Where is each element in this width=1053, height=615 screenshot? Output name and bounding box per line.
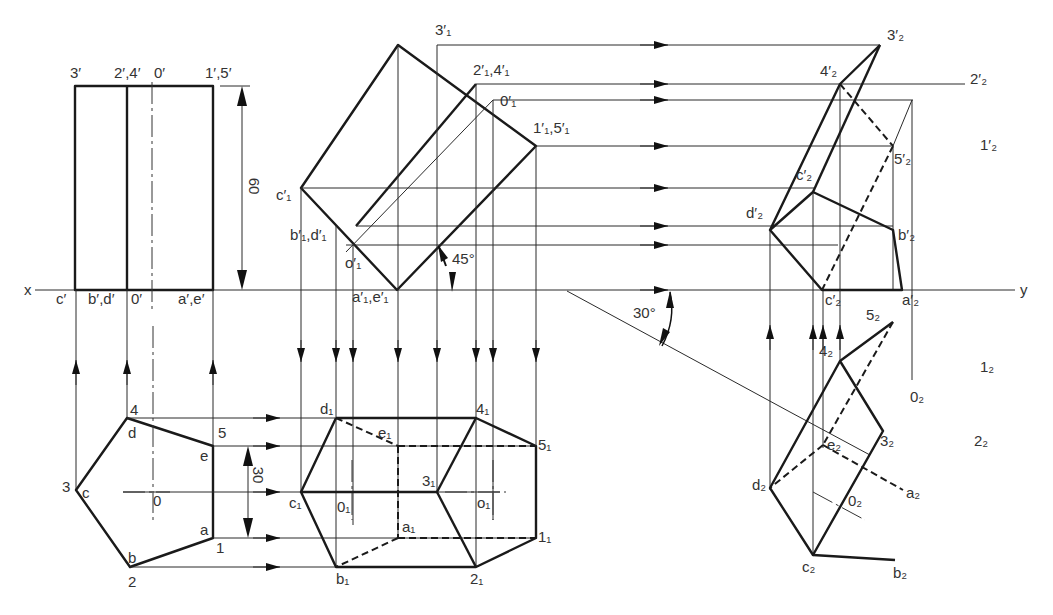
label: 0₂	[848, 492, 862, 509]
label: 1	[216, 539, 224, 556]
label: 3₂	[880, 432, 894, 449]
label: d	[128, 424, 136, 441]
label: b₂	[893, 564, 907, 581]
label: b′₂	[898, 226, 915, 243]
label: 2′,4′	[114, 64, 141, 81]
label: 2′₁,4′₁	[473, 61, 510, 78]
dim-half-width: 30	[250, 467, 267, 484]
label: c′	[56, 290, 67, 307]
label: 1′₂	[980, 136, 997, 153]
label: a′₂	[902, 291, 919, 308]
label: 1′₁,5′₁	[533, 119, 570, 136]
label: 4₁	[476, 400, 489, 417]
label: c′₁	[276, 186, 291, 203]
front-view: 60 3′ 2′,4′ 0′ 1′,5′ c′ b′,d′ 0′ a′,e′	[56, 64, 263, 312]
label: e	[200, 447, 208, 464]
top-view: 30 4 d 5 e 3 c 0 a 1 b 2	[62, 326, 267, 590]
angle-45: 45°	[452, 250, 475, 267]
tilted-front-view: 45° 3′₁ 2′₁,4′₁ 0′₁ 1′₁,5′₁ c′₁ b′₁,d′₁ …	[276, 21, 570, 305]
label: a′,e′	[178, 290, 205, 307]
projection-lines-vertical-mid	[301, 45, 536, 567]
dim-height: 60	[246, 178, 263, 195]
label: c₂	[802, 558, 816, 575]
label: 0₂	[910, 388, 924, 405]
angle-30: 30°	[633, 304, 656, 321]
label: 3′₂	[887, 26, 904, 43]
label: d′₂	[746, 204, 763, 221]
label: c	[82, 484, 90, 501]
label: 1′,5′	[205, 64, 232, 81]
label: e₂	[827, 436, 841, 453]
label: 1₁	[538, 528, 551, 545]
label: 0′	[154, 64, 165, 81]
axis-y-label: y	[1020, 281, 1028, 298]
label: 5′₂	[894, 150, 911, 167]
label: d₂	[752, 476, 766, 493]
label: 3₁	[422, 472, 435, 489]
label: c₁	[289, 494, 302, 511]
projection-diagram: x y 60 3′ 2′,4′ 0′ 1′,5′ c′ b′,d′ 0′ a′,…	[0, 0, 1053, 615]
label: 4′₂	[820, 62, 837, 79]
label: 3	[62, 478, 70, 495]
label: d₁	[320, 400, 333, 417]
label: 4₂	[819, 342, 833, 359]
label: 2′₂	[970, 70, 987, 87]
label: b₁	[336, 570, 349, 587]
label: a	[200, 521, 209, 538]
label: b′,d′	[88, 290, 115, 307]
label: 2₁	[470, 570, 483, 587]
label: b′₁,d′₁	[290, 226, 327, 243]
label: 2₂	[974, 432, 988, 449]
label: 3′₁	[435, 21, 451, 38]
axis-x-label: x	[24, 281, 32, 298]
side-aux-view: 3′₂ 4′₂ 2′₂ 1′₂ c′₂ 5′₂ d′₂ b′₂ c′₂ a′₂	[746, 26, 997, 490]
label: 4	[130, 401, 138, 418]
label: 0′	[131, 290, 142, 307]
label: 0	[153, 492, 161, 509]
label: a₂	[906, 484, 920, 501]
label: a₁	[402, 518, 415, 535]
label: 5₁	[538, 436, 551, 453]
aux-top-view: d₁ e₁ 4₁ 5₁ c₁ 0₁ 3₁ o₁ a₁ 1₁ b₁ 2₁	[289, 400, 551, 587]
label: 1₂	[980, 358, 994, 375]
label: 2	[128, 573, 136, 590]
bottom-aux-view: 5₂ 4₂ 1₂ 0₂ 2₂ e₂ 3₂ d₂ a₂ 0₂ c₂ b₂	[752, 306, 994, 581]
label: 5₂	[866, 306, 880, 323]
label: o₁	[477, 494, 490, 511]
label: e₁	[378, 424, 391, 441]
label: a′₁,e′₁	[352, 288, 389, 305]
label: 0₁	[337, 498, 350, 515]
label: b	[128, 549, 136, 566]
label: c′₂	[825, 291, 841, 308]
label: 5	[218, 424, 226, 441]
label: c′₂	[796, 166, 812, 183]
label: 3′	[70, 64, 81, 81]
